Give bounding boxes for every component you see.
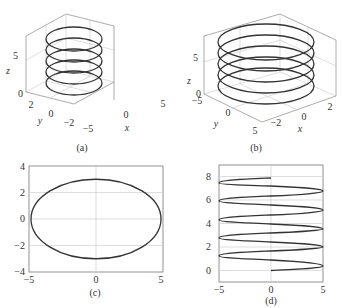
panel-b-ylabel: y xyxy=(213,118,219,129)
panel-c-ytick-2: 2 xyxy=(20,187,25,198)
panel-b-xtick-0: 0 xyxy=(302,111,307,122)
panel-d-side-projection: 8 6 4 2 0 −5 0 5 (d) xyxy=(206,165,326,307)
panel-a-xtick-m5: −5 xyxy=(83,123,94,134)
panel-d-ytick-6: 6 xyxy=(206,194,211,205)
panel-c-xtick-5: 5 xyxy=(159,274,164,285)
panel-c-xtick-m5: −5 xyxy=(24,274,35,285)
panel-b-zlabel: z xyxy=(186,75,191,86)
panel-c-ytick-0: 0 xyxy=(20,213,25,224)
panel-d-ytick-0: 0 xyxy=(206,265,211,276)
panel-b-3d-helix: 5 0 z −5 0 5 y −2 0 2 x (b) xyxy=(186,14,336,154)
panel-b-xtick-m2: −2 xyxy=(271,117,282,128)
panel-d-ytick-2: 2 xyxy=(206,241,211,252)
panel-c-ellipse: 4 2 0 −2 −4 −5 0 5 (c) xyxy=(14,161,163,299)
panel-b-xlabel: x xyxy=(297,123,303,134)
panel-c-ytick-4: 4 xyxy=(20,161,25,172)
panel-d-caption: (d) xyxy=(265,295,277,307)
panel-d-xtick-0: 0 xyxy=(269,284,274,295)
panel-b-helix-curve xyxy=(218,24,314,104)
panel-a-xtick-5: 5 xyxy=(161,98,166,109)
panel-b-ztick-5: 5 xyxy=(193,52,198,63)
panel-c-ytick-m2: −2 xyxy=(14,240,25,251)
panel-a-xlabel: x xyxy=(124,122,130,133)
panel-a-ztick-5: 5 xyxy=(13,50,18,61)
figure-canvas: 5 0 z 2 0 −2 y −5 0 5 x (a) xyxy=(0,0,342,308)
panel-a-ytick-m2: −2 xyxy=(64,117,75,128)
panel-d-ytick-8: 8 xyxy=(206,171,211,182)
panel-a-ytick-2: 2 xyxy=(29,99,34,110)
panel-b-ytick-5: 5 xyxy=(253,125,258,136)
panel-a-xtick-0: 0 xyxy=(124,109,129,120)
panel-d-xtick-m5: −5 xyxy=(214,284,225,295)
panel-a-ylabel: y xyxy=(37,115,43,126)
panel-a-ytick-0: 0 xyxy=(49,108,54,119)
panel-a-ztick-0: 0 xyxy=(18,88,23,99)
panel-c-grid xyxy=(29,166,163,272)
panel-c-xtick-0: 0 xyxy=(94,274,99,285)
panel-d-xtick-5: 5 xyxy=(321,284,326,295)
panel-a-zlabel: z xyxy=(5,65,10,76)
panel-a-3d-helix: 5 0 z 2 0 −2 y −5 0 5 x (a) xyxy=(5,14,165,154)
panel-b-ytick-m5: −5 xyxy=(192,95,203,106)
panel-b-caption: (b) xyxy=(250,142,262,154)
panel-a-caption: (a) xyxy=(76,142,87,154)
panel-d-ytick-4: 4 xyxy=(206,218,211,229)
panel-c-caption: (c) xyxy=(89,287,100,299)
panel-b-ytick-0: 0 xyxy=(226,107,231,118)
panel-b-xtick-2: 2 xyxy=(328,101,333,112)
